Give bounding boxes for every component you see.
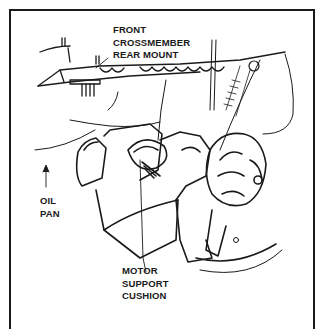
motor-support-cushion-part: [142, 132, 212, 262]
flywheel: [196, 133, 282, 272]
belt: [224, 61, 259, 116]
label-front-crossmember-rear-mount: FRONT CROSSMEMBER REAR MOUNT: [113, 24, 190, 62]
oil-pan-housing: [77, 124, 178, 258]
label-motor-support-cushion: MOTOR SUPPORT CUSHION: [122, 265, 169, 303]
label-oil-pan: OIL PAN: [40, 195, 60, 220]
